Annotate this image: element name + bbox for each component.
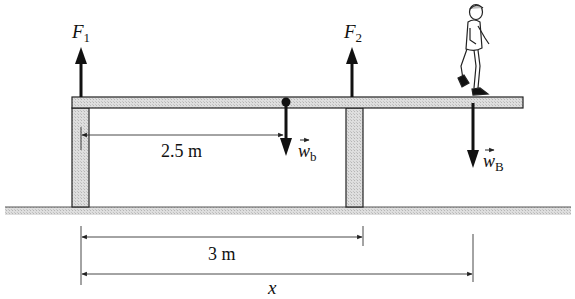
beam-diagram: F1 F2 wb wB 2.5 m [0, 0, 575, 299]
beam [72, 97, 523, 108]
force-f2-label: F2 [343, 21, 362, 45]
dimension-x-label: x [267, 277, 277, 298]
dimension-x [82, 234, 473, 282]
left-support [72, 108, 89, 207]
boy-weight-label: wB [483, 150, 504, 174]
force-f1-label: F1 [71, 21, 90, 45]
ground [5, 207, 571, 215]
force-f2-arrow [346, 47, 358, 97]
boy-figure-icon [458, 5, 489, 96]
middle-support [346, 108, 363, 207]
force-f1-arrow [75, 47, 87, 97]
svg-text:wb: wb [298, 141, 317, 164]
boy-weight-arrow [467, 103, 479, 168]
beam-weight-label: wb [298, 140, 317, 164]
svg-text:wB: wB [483, 151, 504, 174]
dimension-3m-label: 3 m [208, 244, 236, 264]
dimension-2-5m-label: 2.5 m [161, 141, 202, 161]
